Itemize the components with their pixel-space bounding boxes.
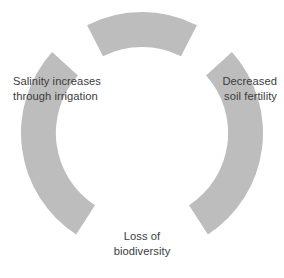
cycle-diagram: Salinity increases through irrigation De…	[0, 0, 284, 278]
cycle-label-biodiversity-line-2: biodiversity	[0, 244, 284, 259]
cycle-label-loss-of-biodiversity: Loss of biodiversity	[0, 229, 284, 258]
cycle-label-soil-fertility-line-1: Decreased	[222, 74, 277, 89]
cycle-label-soil-fertility-line-2: soil fertility	[222, 89, 277, 104]
arc-segment-top	[87, 12, 197, 56]
cycle-label-salinity-line-2: through irrigation	[13, 89, 101, 104]
cycle-label-decreased-soil-fertility: Decreased soil fertility	[222, 74, 277, 103]
cycle-label-biodiversity-line-1: Loss of	[0, 229, 284, 244]
cycle-label-salinity-increases: Salinity increases through irrigation	[13, 74, 101, 103]
cycle-label-salinity-line-1: Salinity increases	[13, 74, 101, 89]
